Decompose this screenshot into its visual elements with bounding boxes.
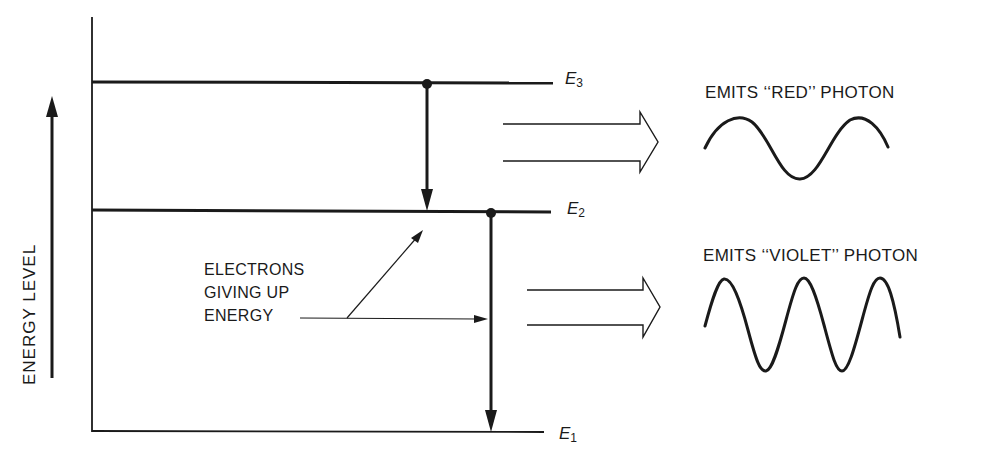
callout-line-1: ELECTRONS <box>204 258 305 281</box>
transition-e3-e2 <box>421 79 433 211</box>
callout-pointers <box>300 230 488 323</box>
level-label-e3: E3 <box>565 69 583 90</box>
level-label-e1: E1 <box>559 424 577 445</box>
photon-label-violet: EMITS ‘‘VIOLET’’ PHOTON <box>703 246 918 266</box>
level-subscript: 1 <box>570 431 577 445</box>
energy-level-diagram <box>0 0 986 467</box>
level-symbol: E <box>565 69 576 88</box>
callout-line-2: GIVING UP <box>204 281 305 304</box>
callout-line-3: ENERGY <box>204 304 305 327</box>
hollow-arrow-violet <box>527 278 660 337</box>
level-label-e2: E2 <box>567 199 585 220</box>
level-subscript: 3 <box>576 76 583 90</box>
energy-axis-arrow <box>46 96 58 378</box>
photon-label-red: EMITS ‘‘RED’’ PHOTON <box>705 83 895 103</box>
transition-e2-e1 <box>485 208 497 432</box>
level-symbol: E <box>559 424 570 443</box>
level-line-e3 <box>92 82 553 83</box>
callout-electrons-giving-up-energy: ELECTRONS GIVING UP ENERGY <box>204 258 305 327</box>
level-line-e2 <box>92 210 551 212</box>
level-symbol: E <box>567 199 578 218</box>
hollow-arrow-red <box>503 112 658 172</box>
level-line-e1 <box>92 431 544 432</box>
violet-photon-wave <box>705 278 900 371</box>
axis-label-energy-level: ENERGY LEVEL <box>20 244 40 385</box>
level-subscript: 2 <box>578 206 585 220</box>
red-photon-wave <box>705 118 888 179</box>
